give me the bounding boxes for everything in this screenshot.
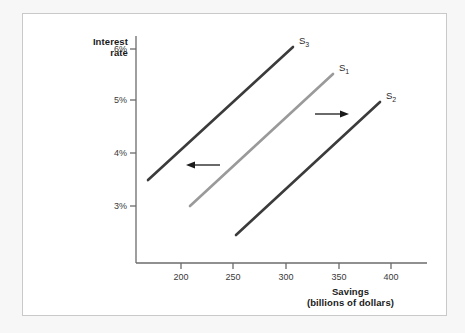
y-tick-label-4: 4%	[101, 148, 127, 158]
x-axis-title-main: Savings	[332, 286, 369, 297]
x-axis-title: Savings (billions of dollars)	[263, 286, 438, 308]
y-tick-label-5: 5%	[101, 95, 127, 105]
x-tick-label-300: 300	[269, 272, 303, 282]
curve-label-s1: S1	[339, 62, 349, 75]
y-tick-label-6: 6%	[101, 44, 127, 54]
y-tick-label-3: 3%	[101, 201, 127, 211]
curve-label-s3: S3	[299, 35, 309, 48]
x-tick-label-250: 250	[216, 272, 250, 282]
figure-frame: Interest rate Savings (billions of dolla…	[22, 13, 447, 316]
x-tick-label-400: 400	[374, 272, 408, 282]
curve-label-s2: S2	[386, 90, 396, 103]
rightward-shift-arrow	[315, 111, 349, 118]
x-tick-label-200: 200	[164, 272, 198, 282]
curve-label-s3-sub: 3	[305, 41, 309, 48]
leftward-shift-arrow	[186, 162, 220, 169]
x-axis-title-units: (billions of dollars)	[307, 297, 394, 308]
x-tick-label-350: 350	[322, 272, 356, 282]
curve-s1	[190, 74, 333, 206]
curve-s2	[236, 102, 380, 235]
curve-label-s2-sub: 2	[392, 96, 396, 103]
curve-label-s1-sub: 1	[345, 68, 349, 75]
curve-s3	[148, 47, 293, 180]
